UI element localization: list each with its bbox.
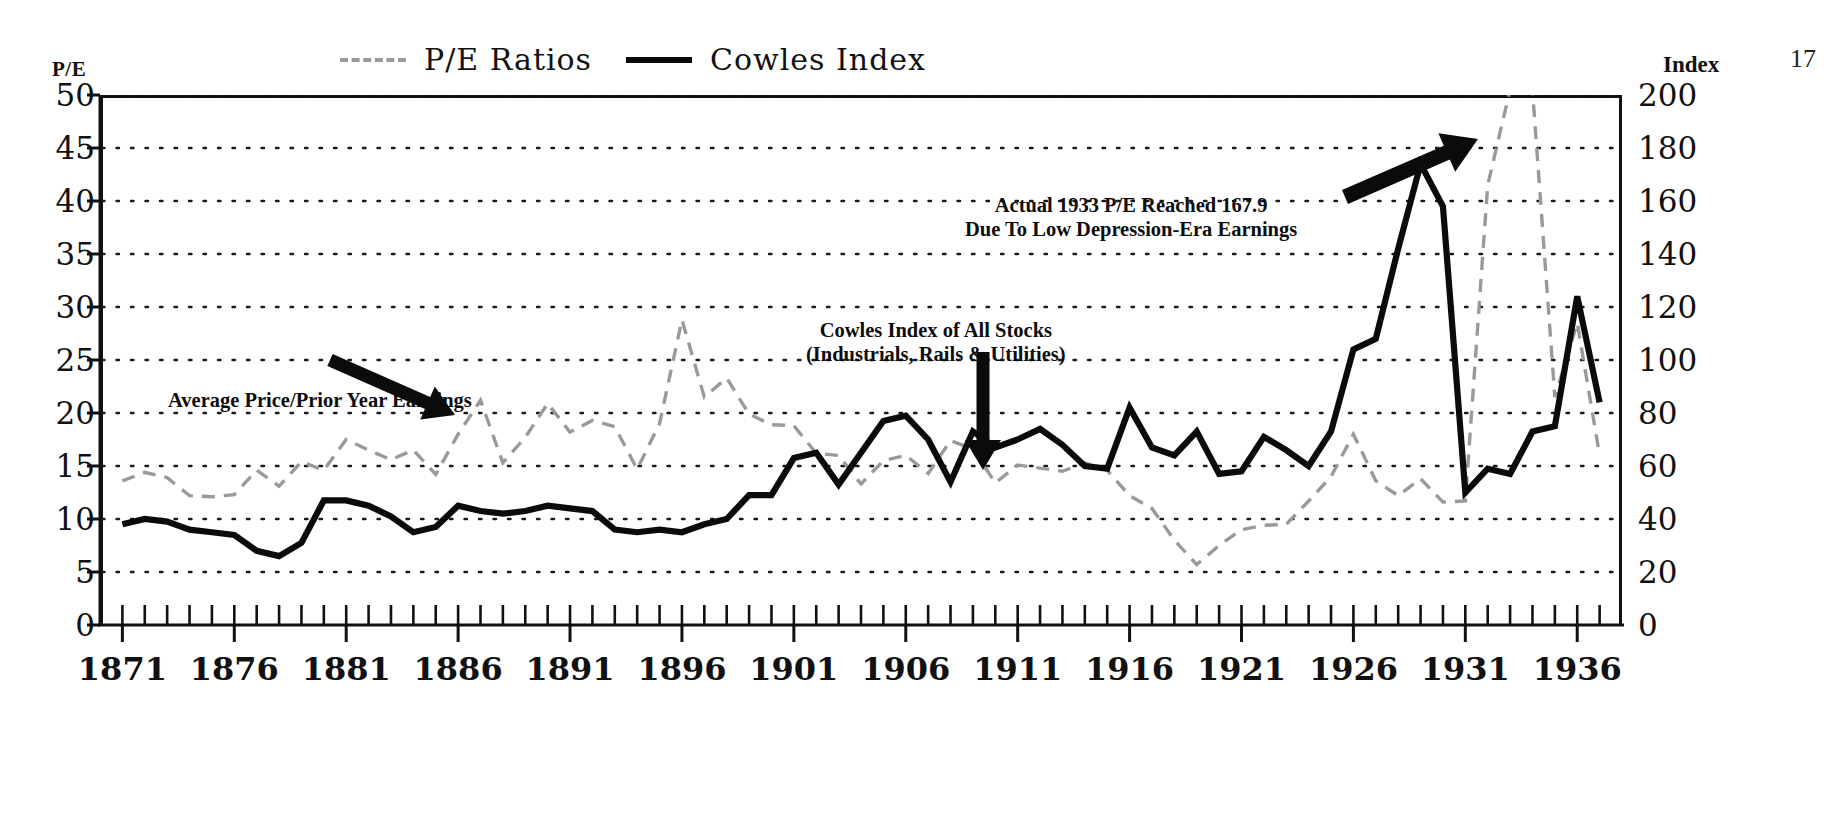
right-axis-title: Index bbox=[1663, 52, 1719, 78]
annotation-peak-line2: Due To Low Depression-Era Earnings bbox=[965, 217, 1297, 241]
right-axis-tick-label: 140 bbox=[1638, 236, 1710, 272]
right-axis-tick-label: 20 bbox=[1638, 554, 1710, 590]
legend-label-pe-ratios: P/E Ratios bbox=[424, 42, 592, 77]
dashed-line-swatch-icon bbox=[340, 58, 406, 62]
annotation-cowles-line2: (Industrials, Rails & Utilities) bbox=[806, 342, 1066, 366]
x-axis-tick-label: 1896 bbox=[637, 650, 726, 688]
right-axis-tick-label: 180 bbox=[1638, 130, 1710, 166]
x-axis-tick-label: 1936 bbox=[1533, 650, 1622, 688]
annotation-cowles-line1: Cowles Index of All Stocks bbox=[806, 318, 1066, 342]
legend-label-cowles-index: Cowles Index bbox=[710, 42, 926, 77]
left-axis-tick-label: 10 bbox=[35, 501, 95, 537]
left-axis-tick-label: 40 bbox=[35, 183, 95, 219]
right-axis-tick-label: 60 bbox=[1638, 448, 1710, 484]
chart-page: P/E Index 17 P/E Ratios Cowles Index 051… bbox=[0, 0, 1847, 829]
left-axis-tick-label: 5 bbox=[35, 554, 95, 590]
legend-item-pe-ratios: P/E Ratios bbox=[340, 42, 592, 77]
left-axis-tick-label: 20 bbox=[35, 395, 95, 431]
left-axis-tick-label: 0 bbox=[35, 607, 95, 643]
x-axis-tick-label: 1881 bbox=[302, 650, 391, 688]
x-axis-tick-label: 1876 bbox=[190, 650, 279, 688]
chart-legend: P/E Ratios Cowles Index bbox=[340, 42, 926, 77]
x-axis-tick-label: 1926 bbox=[1309, 650, 1398, 688]
x-axis-tick-label: 1886 bbox=[414, 650, 503, 688]
right-axis-tick-label: 120 bbox=[1638, 289, 1710, 325]
x-axis-tick-label: 1921 bbox=[1197, 650, 1286, 688]
x-axis-tick-label: 1901 bbox=[749, 650, 838, 688]
left-axis-tick-label: 35 bbox=[35, 236, 95, 272]
annotation-pe-line1: Average Price/Prior Year Earnings bbox=[168, 388, 472, 412]
right-axis-tick-label: 80 bbox=[1638, 395, 1710, 431]
x-axis-tick-label: 1911 bbox=[973, 650, 1062, 688]
annotation-peak-1933: Actual 1933 P/E Reached 167.9 Due To Low… bbox=[965, 193, 1297, 241]
annotation-cowles-series: Cowles Index of All Stocks (Industrials,… bbox=[806, 318, 1066, 366]
right-axis-tick-label: 40 bbox=[1638, 501, 1710, 537]
x-axis-tick-label: 1891 bbox=[525, 650, 614, 688]
legend-item-cowles-index: Cowles Index bbox=[626, 42, 926, 77]
solid-line-swatch-icon bbox=[626, 57, 692, 63]
page-number: 17 bbox=[1790, 44, 1816, 74]
x-axis-tick-label: 1871 bbox=[78, 650, 167, 688]
left-axis-tick-label: 15 bbox=[35, 448, 95, 484]
right-axis-tick-label: 0 bbox=[1638, 607, 1710, 643]
left-axis-tick-label: 25 bbox=[35, 342, 95, 378]
left-axis-tick-label: 45 bbox=[35, 130, 95, 166]
annotation-peak-line1: Actual 1933 P/E Reached 167.9 bbox=[965, 193, 1297, 217]
x-axis-tick-label: 1931 bbox=[1421, 650, 1510, 688]
right-axis-tick-label: 160 bbox=[1638, 183, 1710, 219]
x-axis-tick-label: 1916 bbox=[1085, 650, 1174, 688]
right-axis-tick-label: 100 bbox=[1638, 342, 1710, 378]
left-axis-tick-label: 30 bbox=[35, 289, 95, 325]
left-axis-tick-label: 50 bbox=[35, 77, 95, 113]
right-axis-tick-label: 200 bbox=[1638, 77, 1710, 113]
x-axis-tick-label: 1906 bbox=[861, 650, 950, 688]
annotation-pe-series: Average Price/Prior Year Earnings bbox=[168, 388, 472, 412]
